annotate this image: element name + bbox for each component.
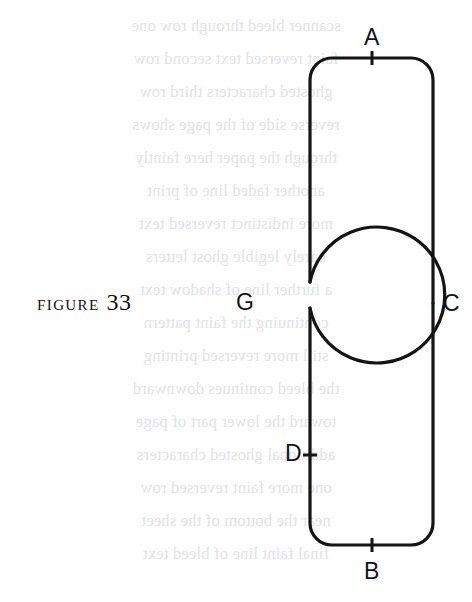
- point-label-d: D: [285, 442, 302, 465]
- point-label-g: G: [236, 291, 254, 314]
- figure-caption: FIGURE33: [37, 289, 132, 316]
- rounded-track-upper-segment: [310, 58, 433, 303]
- rounded-track-lower-segment: [310, 303, 433, 545]
- point-label-c: C: [443, 292, 460, 315]
- figure-caption-number: 33: [107, 289, 132, 315]
- point-label-a: A: [364, 26, 379, 49]
- circular-loop: [310, 227, 445, 363]
- point-label-b: B: [364, 560, 379, 583]
- scanned-page: scanner bleed through row onefaint rever…: [0, 0, 472, 602]
- figure-caption-word: FIGURE: [37, 297, 100, 313]
